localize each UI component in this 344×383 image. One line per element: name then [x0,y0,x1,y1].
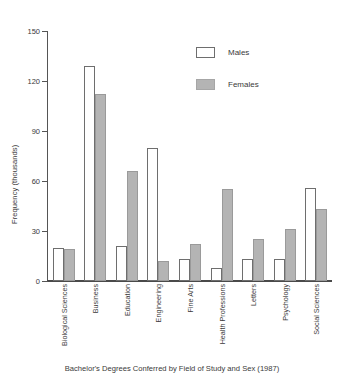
x-tick-cell: Biological Sciences [48,284,80,356]
bar-females [316,209,327,281]
x-tick-label: Biological Sciences [59,284,68,346]
bar-females [127,171,138,281]
x-tick-cell: Business [80,284,112,356]
x-axis-tick-labels: Biological SciencesBusinessEducationEngi… [48,284,332,356]
bar-females [158,261,169,281]
bar-males [116,246,127,281]
x-tick-label: Business [91,284,100,313]
x-tick-label: Psychology [280,284,289,321]
x-tick-cell: Psychology [269,284,301,356]
y-axis-title-text: Frequency (thousands) [10,104,19,224]
x-tick-label: Social Sciences [312,284,321,335]
x-tick-cell: Engineering [143,284,175,356]
y-tick-label: 120 [27,77,40,86]
x-tick-cell: Health Professions [206,284,238,356]
bar-males [305,188,316,281]
legend-label-males: Males [228,48,249,57]
bar-group [80,31,112,281]
bar-males [179,259,190,281]
legend-swatch-males [196,47,215,58]
chart-caption: Bachelor's Degrees Conferred by Field of… [0,364,344,373]
bar-females [190,244,201,281]
y-tick-label: 60 [32,177,40,186]
y-tick-mark [42,281,48,282]
bar-chart-figure: Frequency (thousands) 0306090120150 Biol… [0,0,344,383]
x-tick-cell: Education [111,284,143,356]
bar-males [147,148,158,281]
x-tick-label: Letters [249,284,258,306]
x-tick-label: Health Professions [217,284,226,344]
bar-group [143,31,175,281]
bar-males [274,259,285,281]
y-axis-title: Frequency (thousands) [10,0,19,104]
bar-females [285,229,296,281]
bar-males [53,248,64,281]
y-tick-label: 90 [32,127,40,136]
x-tick-cell: Social Sciences [301,284,333,356]
y-tick-label: 0 [36,277,40,286]
legend-item-females: Females [196,78,306,91]
y-tick-label: 150 [27,27,40,36]
y-tick-label: 30 [32,227,40,236]
chart-legend: Males Females [196,46,306,110]
x-tick-label: Fine Arts [186,284,195,312]
bar-females [222,189,233,281]
x-tick-label: Engineering [154,284,163,322]
x-tick-label: Education [122,284,131,316]
bar-group [111,31,143,281]
legend-item-males: Males [196,46,306,59]
bar-males [84,66,95,281]
x-tick-cell: Fine Arts [174,284,206,356]
legend-swatch-females [196,79,215,90]
bar-group [48,31,80,281]
bar-females [253,239,264,281]
bar-females [64,249,75,281]
bar-females [95,94,106,281]
legend-label-females: Females [228,80,259,89]
bar-males [211,268,222,281]
bar-males [242,259,253,281]
x-tick-cell: Letters [237,284,269,356]
